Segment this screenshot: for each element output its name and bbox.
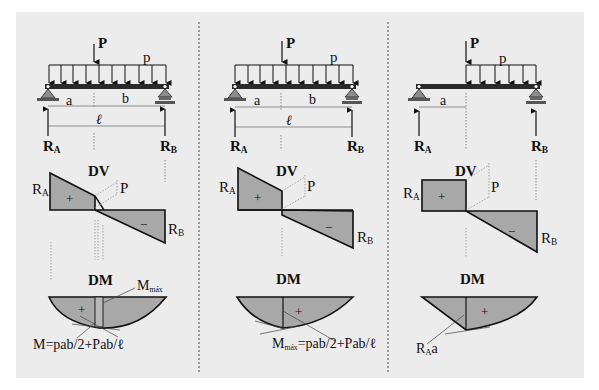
span-b-label: b [309,93,316,107]
roller-support-b [526,89,546,104]
point-load-label: P [98,36,107,51]
beam [416,84,540,89]
moment-diagram-title: DM [276,272,301,287]
reaction-b-label: RB [531,139,548,156]
span-a-label: a [254,94,260,108]
reaction-a-label: RA [230,139,248,156]
moment-positive-sign: + [78,303,85,316]
shear-p-jump-label: P [491,180,499,195]
pin-support-a [224,89,246,101]
shear-ra-label: RA [219,180,236,197]
shear-diagram-title: DV [276,164,298,179]
moment-diagram-title: DM [460,272,485,287]
case-2 [224,41,362,341]
span-length-label: ℓ [96,113,102,127]
beam [232,84,356,89]
pin-support-a [408,89,430,101]
distributed-load-arrows [49,65,166,83]
shear-p-jump-label: P [307,179,315,194]
case-1 [37,44,175,338]
shear-p-jump-label: P [120,181,128,196]
case-3 [408,41,546,344]
moment-diagram-title: DM [88,273,113,288]
point-load-label: P [286,36,295,51]
shear-diagram-title: DV [88,164,110,179]
span-length-label: ℓ [286,114,292,128]
reaction-a-label: RA [414,139,432,156]
roller-support-b [342,89,362,104]
distributed-load-label: p [143,50,151,65]
span-a-label: a [66,94,72,108]
shear-rb-label: RB [168,222,184,239]
shear-diagram [422,163,537,258]
shear-rb-label: RB [541,231,557,248]
beam-diagrams-canvas [0,0,599,390]
mmax-formula: Mmáx=pab/2+Pab/ℓ [272,337,376,351]
shear-positive-sign: + [254,191,261,204]
reaction-b-label: RB [160,139,177,156]
shear-negative-sign: − [508,225,515,238]
span-a-label: a [440,94,446,108]
moment-formula: M=pab/2+Pab/ℓ [33,338,124,352]
moment-diagram [422,297,537,344]
span-b-label: b [122,92,129,106]
moment-positive-sign: + [481,305,488,318]
distributed-load-arrows [235,65,353,83]
reaction-a-label: RA [43,139,61,156]
shear-ra-label: RA [32,182,49,199]
shear-diagram [50,173,165,280]
roller-support-b [155,89,175,104]
distributed-load-label: p [330,50,338,65]
distributed-load-label: p [499,51,507,66]
shear-ra-label: RA [403,186,420,203]
distributed-load-arrows [466,65,536,83]
beam [45,84,169,89]
shear-rb-label: RB [357,230,373,247]
point-load-label: P [470,36,479,51]
shear-negative-sign: − [140,218,147,231]
shear-positive-sign: + [438,190,445,203]
shear-negative-sign: − [325,221,332,234]
shear-diagram [238,168,353,256]
shear-diagram-title: DV [455,164,477,179]
ra-a-moment-label: RAa [416,342,438,357]
moment-positive-sign: + [295,305,302,318]
reaction-b-label: RB [347,139,364,156]
shear-positive-sign: + [66,192,73,205]
mmax-label: Mmáx [137,279,163,293]
moment-diagram [49,288,166,338]
pin-support-a [37,89,59,101]
